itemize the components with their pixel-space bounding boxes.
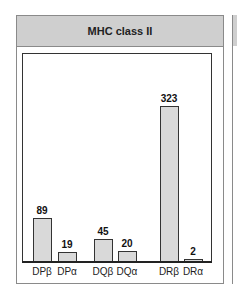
bar — [94, 239, 113, 261]
bar — [118, 251, 137, 261]
adjacent-panel-edge — [232, 15, 237, 284]
bar-value-label: 19 — [52, 239, 82, 250]
bar-value-label: 323 — [154, 93, 184, 104]
bar — [33, 218, 52, 261]
panel-title: MHC class II — [17, 16, 223, 47]
x-axis-baseline — [22, 261, 212, 263]
x-tick-label: DQα — [112, 266, 142, 277]
bar-value-label: 2 — [178, 246, 208, 257]
bar-value-label: 45 — [88, 226, 118, 237]
adjacent-panel-header — [233, 15, 237, 46]
x-tick-label: DRα — [178, 266, 208, 277]
bar — [160, 106, 179, 261]
bar-value-label: 20 — [112, 238, 142, 249]
chart-panel: MHC class II 89DPβ19DPα45DQβ20DQα323DRβ2… — [16, 15, 224, 284]
bar — [184, 259, 203, 261]
bar-value-label: 89 — [27, 205, 57, 216]
bar — [58, 252, 77, 261]
x-tick-label: DPα — [52, 266, 82, 277]
